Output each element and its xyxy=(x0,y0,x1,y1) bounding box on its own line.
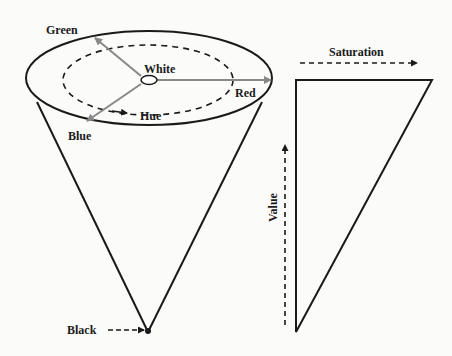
sv-triangle: Saturation Value xyxy=(266,45,432,332)
value-label: Value xyxy=(266,192,280,222)
hsv-cone: Green White Red Hue Blue Black xyxy=(26,23,272,337)
sv-triangle-shape xyxy=(296,80,432,332)
cone-left-edge xyxy=(37,102,148,332)
green-label: Green xyxy=(46,23,78,37)
red-label: Red xyxy=(235,86,256,100)
cone-right-edge xyxy=(148,102,262,332)
hue-label: Hue xyxy=(140,109,162,123)
white-label: White xyxy=(144,62,176,76)
hsv-diagram: Green White Red Hue Blue Black Saturatio… xyxy=(0,0,452,356)
white-center-point xyxy=(141,76,157,85)
black-apex-point xyxy=(145,328,151,334)
saturation-label: Saturation xyxy=(329,45,384,59)
blue-label: Blue xyxy=(68,129,92,143)
black-label: Black xyxy=(67,323,97,337)
